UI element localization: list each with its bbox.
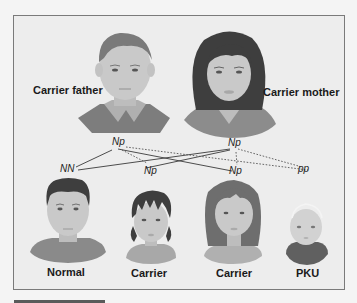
child-carrier-1-portrait [126, 191, 176, 265]
father-label: Carrier father [33, 84, 103, 96]
father-genotype: Np [112, 136, 125, 147]
child-pku-genotype: pp [298, 163, 309, 174]
child-pku-label: PKU [296, 267, 319, 279]
child-carrier-2-portrait [204, 180, 262, 264]
mother-label: Carrier mother [263, 86, 339, 98]
father-portrait [78, 33, 170, 133]
child-carrier-2-genotype: Np [229, 165, 242, 176]
child-normal-label: Normal [47, 266, 85, 278]
illustration-layer [0, 0, 357, 303]
child-normal-genotype: NN [60, 163, 74, 174]
mother-portrait [184, 31, 276, 138]
child-pku-portrait [286, 204, 328, 265]
mother-genotype: Np [228, 137, 241, 148]
child-normal-portrait [30, 178, 106, 263]
child-carrier-1-label: Carrier [131, 267, 167, 279]
child-carrier-2-label: Carrier [216, 267, 252, 279]
child-carrier-1-genotype: Np [144, 165, 157, 176]
